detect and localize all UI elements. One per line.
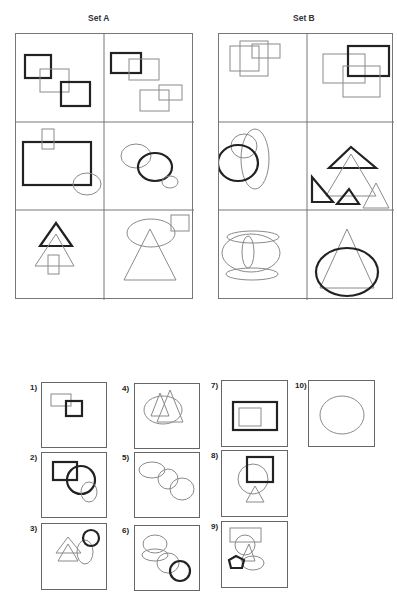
- cell-b6: [316, 229, 378, 296]
- answer-6-label: 6): [122, 526, 129, 535]
- answer-option-2[interactable]: [41, 452, 107, 518]
- cell-b5: [222, 231, 280, 280]
- answer-8-figure: [222, 451, 289, 518]
- cell-a3: [23, 129, 101, 195]
- answer-option-1[interactable]: [41, 382, 107, 448]
- answer-9-figure: [222, 522, 289, 589]
- answer-9-label: 9): [211, 522, 218, 531]
- set-a-grid: [15, 33, 193, 299]
- answer-2-label: 2): [30, 453, 37, 462]
- answer-5-figure: [135, 453, 201, 519]
- set-b-figures: [219, 34, 394, 300]
- answer-7-figure: [222, 381, 289, 448]
- answer-4-label: 4): [122, 384, 129, 393]
- answer-2-figure: [42, 453, 108, 519]
- answer-10-figure: [309, 381, 376, 448]
- answer-option-9[interactable]: [221, 521, 288, 588]
- answer-option-6[interactable]: [134, 525, 200, 591]
- set-b-title: Set B: [293, 13, 315, 23]
- set-a-figures: [16, 34, 194, 300]
- answer-option-3[interactable]: [41, 523, 107, 590]
- cell-b1: [230, 41, 280, 76]
- set-b-grid: [218, 33, 393, 299]
- answer-option-10[interactable]: [308, 380, 375, 447]
- cell-a5: [35, 223, 74, 274]
- answer-4-figure: [135, 384, 201, 450]
- cell-b2: [323, 46, 389, 97]
- cell-a4: [121, 144, 178, 188]
- answer-option-5[interactable]: [134, 452, 200, 518]
- answer-3-figure: [42, 524, 108, 591]
- answer-7-label: 7): [211, 381, 218, 390]
- answer-5-label: 5): [122, 453, 129, 462]
- cell-a6: [124, 215, 189, 280]
- answer-6-figure: [135, 526, 201, 592]
- set-a-title: Set A: [88, 13, 109, 23]
- cell-a1: [25, 55, 90, 106]
- answer-3-label: 3): [30, 524, 37, 533]
- answer-option-7[interactable]: [221, 380, 288, 447]
- answer-1-figure: [42, 383, 108, 449]
- answer-option-4[interactable]: [134, 383, 200, 449]
- answer-10-label: 10): [295, 381, 307, 390]
- cell-b3: [219, 129, 269, 189]
- cell-b4: [312, 147, 389, 208]
- answer-1-label: 1): [30, 383, 37, 392]
- cell-a2: [111, 53, 182, 111]
- answer-8-label: 8): [211, 451, 218, 460]
- answer-option-8[interactable]: [221, 450, 288, 517]
